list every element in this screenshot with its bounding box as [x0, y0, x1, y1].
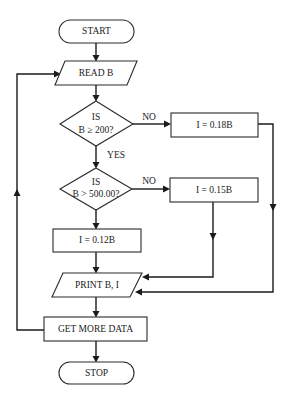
node-more-label: GET MORE DATA — [58, 324, 133, 334]
node-stop: STOP — [59, 362, 134, 384]
node-decision1: IS B ≥ 200? — [60, 101, 133, 146]
node-read-label: READ B — [79, 68, 114, 78]
node-stop-label: STOP — [85, 368, 108, 378]
edge-rate18-print — [141, 124, 273, 292]
edge-label-decision1-no: NO — [142, 112, 156, 122]
node-decision1-line1: IS — [92, 112, 100, 122]
node-decision2-line2: B > 500.00? — [73, 189, 120, 199]
arrowhead-icon — [164, 121, 171, 128]
arrowhead-icon — [14, 189, 21, 196]
edge-more-read-loop — [17, 74, 55, 330]
node-decision2: IS B > 500.00? — [60, 168, 132, 210]
flowchart-canvas: START READ B IS B ≥ 200? I = 0.18B IS B … — [0, 0, 288, 404]
arrowhead-icon — [210, 233, 217, 240]
flowchart-svg: START READ B IS B ≥ 200? I = 0.18B IS B … — [0, 0, 288, 404]
node-decision1-line2: B ≥ 200? — [79, 125, 114, 135]
connectors — [14, 43, 277, 363]
node-start-label: START — [82, 26, 111, 36]
arrowhead-icon — [142, 274, 149, 281]
decision-shape — [60, 101, 133, 146]
arrowhead-icon — [163, 186, 170, 193]
edge-label-decision2-no: NO — [142, 176, 156, 186]
node-rate15: I = 0.15B — [170, 178, 258, 202]
node-decision2-line1: IS — [92, 177, 100, 187]
node-rate15-label: I = 0.15B — [196, 185, 232, 195]
node-start: START — [59, 20, 134, 43]
arrowhead-icon — [270, 204, 277, 211]
node-rate12: I = 0.12B — [53, 229, 141, 252]
node-rate18-label: I = 0.18B — [196, 120, 232, 130]
node-rate18: I = 0.18B — [171, 113, 258, 137]
node-rate12-label: I = 0.12B — [79, 235, 115, 245]
edge-label-decision1-yes: YES — [107, 150, 125, 160]
node-print: PRINT B, I — [52, 273, 142, 297]
node-print-label: PRINT B, I — [75, 280, 119, 290]
node-read: READ B — [55, 61, 137, 85]
node-more: GET MORE DATA — [44, 317, 147, 341]
edge-rate15-print — [148, 202, 213, 277]
arrowhead-icon — [135, 289, 142, 296]
